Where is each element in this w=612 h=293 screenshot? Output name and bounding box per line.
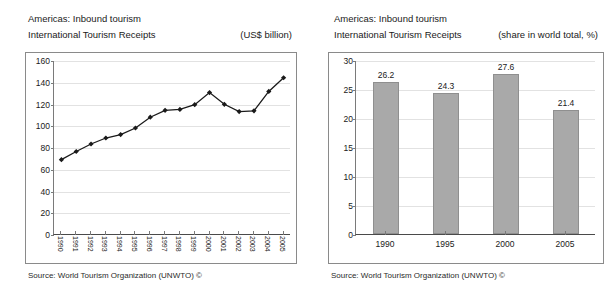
y-axis-tick-label: 30	[344, 57, 353, 66]
x-axis-tick-mark	[385, 231, 386, 235]
x-axis-tick-label: 2005	[279, 236, 286, 252]
x-axis-tick-label: 2003	[249, 236, 256, 252]
bar	[553, 110, 578, 234]
line-chart-plot-area	[53, 61, 290, 235]
data-point-marker	[162, 108, 167, 113]
bar-chart-panel: Americas: Inbound tourism International …	[306, 0, 612, 293]
line-chart-title: Americas: Inbound tourism	[28, 13, 292, 25]
figure-sheet: Americas: Inbound tourism International …	[0, 0, 612, 293]
bar-chart-frame: 051015202530 26.224.327.621.4 1990199520…	[328, 52, 604, 264]
data-point-marker	[103, 135, 108, 140]
y-axis-tick-label: 40	[41, 187, 50, 196]
x-axis-tick-mark	[120, 231, 121, 235]
x-axis-tick-label: 2000	[496, 240, 515, 249]
line-chart-header: Americas: Inbound tourism International …	[28, 13, 292, 47]
x-axis-tick-label: 2002	[235, 236, 242, 252]
x-axis-tick-mark	[283, 231, 284, 235]
y-axis-tick-label: 140	[36, 79, 50, 88]
x-axis-tick-label: 1994	[116, 236, 123, 252]
x-axis-tick-mark	[164, 231, 165, 235]
line-chart-panel: Americas: Inbound tourism International …	[0, 0, 306, 293]
x-axis-tick-label: 1998	[175, 236, 182, 252]
x-axis-tick-mark	[90, 231, 91, 235]
x-axis-tick-label: 1995	[436, 240, 455, 249]
x-axis-tick-label: 1997	[161, 236, 168, 252]
x-axis-tick-mark	[194, 231, 195, 235]
bar-chart-source: Source: World Tourism Organization (UNWT…	[331, 271, 505, 281]
x-axis-tick-mark	[209, 231, 210, 235]
line-chart-frame: 020406080100120140160 199019911992199319…	[25, 52, 297, 264]
y-axis-tick-label: 100	[36, 122, 50, 131]
line-path	[61, 78, 283, 160]
x-axis-tick-label: 1990	[57, 236, 64, 252]
y-axis-tick-label: 160	[36, 57, 50, 66]
y-axis-tick-label: 15	[344, 144, 353, 153]
bar	[493, 74, 518, 234]
bar-data-label: 21.4	[558, 99, 575, 108]
x-axis-tick-label: 2000	[205, 236, 212, 252]
y-axis-tick-label: 0	[45, 231, 50, 240]
data-point-marker	[59, 157, 64, 162]
x-axis-tick-label: 2005	[556, 240, 575, 249]
data-point-marker	[74, 149, 79, 154]
line-chart-subtitle: International Tourism Receipts	[28, 29, 156, 41]
x-axis-tick-mark	[565, 231, 566, 235]
x-axis-tick-label: 2004	[264, 236, 271, 252]
bar-data-label: 27.6	[498, 63, 515, 72]
data-point-marker	[118, 132, 123, 137]
x-axis-tick-label: 1992	[87, 236, 94, 252]
data-point-marker	[88, 141, 93, 146]
x-axis-tick-label: 1990	[376, 240, 395, 249]
bar-chart-unit-label: (share in world total, %)	[498, 29, 598, 41]
x-axis-tick-mark	[149, 231, 150, 235]
x-axis-tick-mark	[75, 231, 76, 235]
x-axis-tick-mark	[445, 231, 446, 235]
data-point-marker	[237, 109, 242, 114]
y-axis-tick-label: 20	[41, 209, 50, 218]
line-chart-x-axis: 1990199119921993199419951996199719981999…	[53, 235, 290, 263]
x-axis-tick-mark	[60, 231, 61, 235]
x-axis-tick-label: 1991	[72, 236, 79, 252]
bar-chart-x-axis: 1990199520002005	[355, 235, 595, 259]
bar-chart-subtitle: International Tourism Receipts	[334, 29, 462, 41]
y-axis-tick-label: 20	[344, 115, 353, 124]
bar-chart-header: Americas: Inbound tourism International …	[334, 13, 598, 47]
x-axis-tick-mark	[105, 231, 106, 235]
line-chart-unit-label: (US$ billion)	[240, 29, 292, 41]
x-axis-tick-label: 1999	[190, 236, 197, 252]
gridline	[356, 61, 595, 62]
y-axis-tick-label: 5	[348, 202, 353, 211]
x-axis-tick-mark	[253, 231, 254, 235]
bar-chart-title: Americas: Inbound tourism	[334, 13, 598, 25]
x-axis-tick-label: 2001	[220, 236, 227, 252]
y-axis-tick-label: 60	[41, 166, 50, 175]
bar-data-label: 24.3	[438, 82, 455, 91]
x-axis-tick-mark	[134, 231, 135, 235]
data-point-marker	[177, 107, 182, 112]
bar-data-label: 26.2	[378, 71, 395, 80]
bar	[433, 93, 458, 234]
line-chart-series	[54, 61, 291, 235]
x-axis-tick-mark	[268, 231, 269, 235]
line-chart-source: Source: World Tourism Organization (UNWT…	[28, 271, 202, 281]
y-axis-tick-label: 10	[344, 173, 353, 182]
bar-chart-plot-area: 26.224.327.621.4	[355, 61, 595, 235]
y-axis-tick-label: 0	[348, 231, 353, 240]
x-axis-tick-mark	[179, 231, 180, 235]
bar	[373, 82, 398, 234]
line-chart-y-axis: 020406080100120140160	[28, 53, 52, 263]
y-axis-tick-label: 25	[344, 86, 353, 95]
x-axis-tick-label: 1993	[101, 236, 108, 252]
x-axis-tick-mark	[505, 231, 506, 235]
x-axis-tick-label: 1995	[131, 236, 138, 252]
bar-chart-y-axis: 051015202530	[331, 53, 355, 263]
x-axis-tick-mark	[223, 231, 224, 235]
x-axis-tick-label: 1996	[146, 236, 153, 252]
y-axis-tick-label: 80	[41, 144, 50, 153]
x-axis-tick-mark	[238, 231, 239, 235]
y-axis-tick-label: 120	[36, 100, 50, 109]
